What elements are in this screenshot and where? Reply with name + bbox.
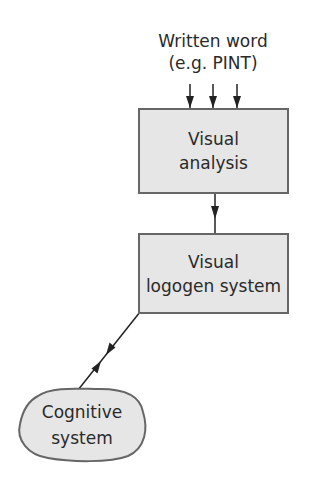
cognitive-system-line2: system: [20, 425, 144, 451]
visual-logogen-system-box: Visual logogen system: [138, 233, 289, 314]
visual-analysis-line1: Visual: [188, 127, 239, 151]
visual-logogen-line1: Visual: [188, 250, 239, 274]
logogen-cognitive-arrow: [78, 312, 140, 390]
visual-analysis-line2: analysis: [179, 151, 248, 175]
visual-logogen-line2: logogen system: [146, 274, 281, 298]
cognitive-system-label: Cognitive system: [20, 399, 144, 451]
input-arrows: [186, 84, 241, 108]
visual-analysis-box: Visual analysis: [138, 108, 289, 194]
analysis-to-logogen-arrow: [211, 193, 219, 234]
cognitive-system-line1: Cognitive: [20, 399, 144, 425]
